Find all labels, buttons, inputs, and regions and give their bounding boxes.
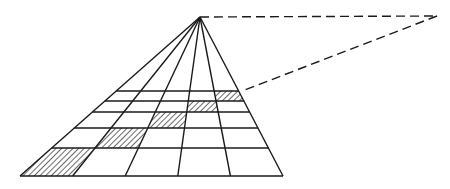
- hatched-tile: [187, 101, 218, 112]
- converging-line: [200, 17, 283, 176]
- diagonal-dashed-line: [242, 16, 437, 91]
- converging-line: [20, 17, 200, 176]
- perspective-diagram: [0, 0, 450, 189]
- construction-lines: [200, 16, 437, 91]
- horizon-dashed-line: [200, 16, 437, 17]
- diagram-canvas: [0, 0, 450, 189]
